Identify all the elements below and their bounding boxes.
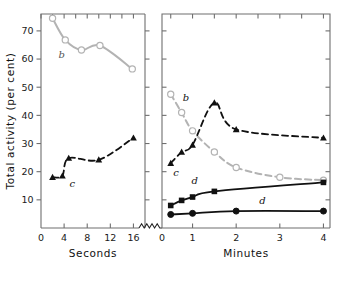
chart-svg: 10203040506070Total activity (per cent)0… xyxy=(0,0,346,283)
y-axis-group: 10203040506070 xyxy=(21,25,330,205)
marker-open-circle xyxy=(189,128,195,134)
marker-open-circle xyxy=(277,174,283,180)
series-line-b xyxy=(171,94,324,180)
marker-filled-triangle xyxy=(178,148,185,154)
x-tick-label: 16 xyxy=(127,232,139,243)
series-minutes-panel-d-circles xyxy=(168,208,327,217)
series-line-b xyxy=(53,18,133,69)
marker-open-circle xyxy=(211,149,217,155)
x-tick-label: 4 xyxy=(61,232,67,243)
y-axis-title: Total activity (per cent) xyxy=(4,53,16,191)
marker-open-circle xyxy=(233,164,239,170)
series-annotation-b: b xyxy=(59,49,65,60)
seconds-axis-title: Seconds xyxy=(69,247,117,259)
series-annotation-b: b xyxy=(183,92,189,103)
series-seconds-panel-c xyxy=(49,91,327,217)
marker-open-circle xyxy=(49,15,55,21)
x-tick-label: 3 xyxy=(277,232,283,243)
x-tick-label: 4 xyxy=(320,232,326,243)
marker-open-circle xyxy=(168,91,174,97)
y-tick-label: 10 xyxy=(21,194,33,205)
x-tick-label: 1 xyxy=(190,232,196,243)
x-tick-label: 12 xyxy=(104,232,116,243)
marker-filled-square xyxy=(179,198,185,204)
axes-group: 10203040506070 xyxy=(21,14,330,228)
marker-filled-square xyxy=(212,189,218,195)
x-tick-label: 0 xyxy=(38,232,44,243)
marker-filled-triangle xyxy=(130,134,137,140)
figure-container: 10203040506070Total activity (per cent)0… xyxy=(0,0,346,283)
marker-filled-square xyxy=(321,180,327,186)
x-tick-label: 0 xyxy=(159,232,165,243)
y-tick-label: 70 xyxy=(21,25,33,36)
marker-filled-triangle xyxy=(59,172,66,178)
series-seconds-panel-b xyxy=(49,15,135,72)
x-axis-break-symbol xyxy=(139,224,162,228)
series-annotation-d: d xyxy=(259,195,265,206)
minutes-axis-title: Minutes xyxy=(223,247,269,259)
minutes-panel-series-group xyxy=(167,91,327,217)
marker-filled-square xyxy=(168,203,174,209)
y-tick-label: 60 xyxy=(21,53,33,64)
marker-filled-triangle xyxy=(211,99,218,105)
marker-filled-circle xyxy=(190,210,196,216)
series-annotation-c: c xyxy=(69,178,75,189)
marker-filled-square xyxy=(190,194,196,200)
series-annotation-d: d xyxy=(192,175,198,186)
series-line-c xyxy=(53,138,134,178)
y-tick-label: 20 xyxy=(21,166,33,177)
marker-open-circle xyxy=(97,42,103,48)
marker-open-circle xyxy=(78,47,84,53)
marker-filled-circle xyxy=(233,208,239,214)
x-tick-label: 8 xyxy=(84,232,90,243)
marker-open-circle xyxy=(129,66,135,72)
marker-open-circle xyxy=(179,109,185,115)
marker-open-circle xyxy=(62,37,68,43)
y-tick-label: 30 xyxy=(21,138,33,149)
series-annotation-c: c xyxy=(173,167,179,178)
marker-filled-circle xyxy=(168,211,174,217)
minutes-x-axis-group: 01234 xyxy=(159,14,327,243)
seconds-panel-series-group xyxy=(49,15,327,217)
marker-filled-circle xyxy=(320,208,326,214)
y-tick-label: 50 xyxy=(21,82,33,93)
y-tick-label: 40 xyxy=(21,110,33,121)
x-tick-label: 2 xyxy=(233,232,239,243)
marker-filled-triangle xyxy=(320,134,327,140)
